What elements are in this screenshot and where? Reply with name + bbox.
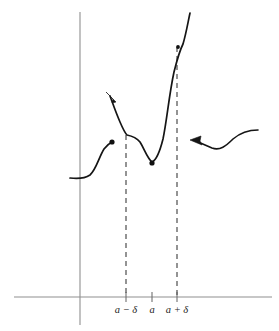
tick-label-a-minus-delta: a − δ (115, 304, 139, 315)
limit-diagram-figure: a − δ a a + δ (0, 0, 279, 331)
tick-label-a: a (149, 304, 154, 315)
left-branch-endpoint-dot (109, 139, 114, 144)
right-pointer-arrowhead-icon (190, 136, 202, 145)
upper-crossing-dot (176, 45, 180, 49)
right-pointer-curve (194, 130, 258, 149)
function-curve-middle-branch (110, 13, 190, 162)
diagram-canvas: a − δ a a + δ (0, 0, 279, 331)
function-curve-left-branch (70, 142, 112, 179)
local-minimum-dot (149, 160, 154, 165)
tick-label-a-plus-delta: a + δ (166, 304, 190, 315)
